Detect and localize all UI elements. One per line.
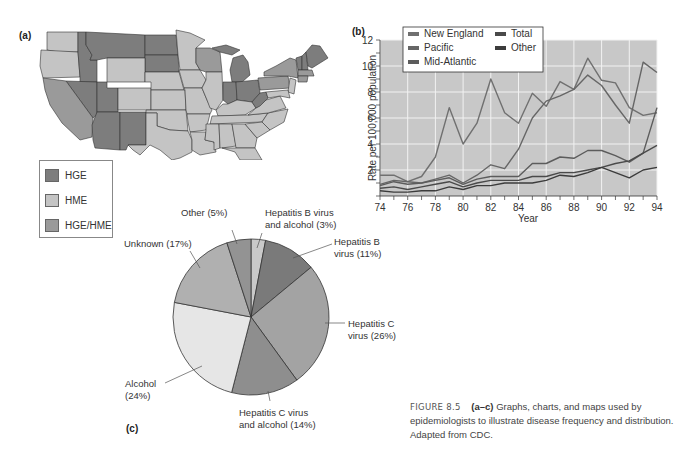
pie-label-line: Hepatitis C xyxy=(348,318,396,330)
state-mi xyxy=(230,55,250,82)
x-tick-label: 76 xyxy=(402,202,414,213)
state-ks xyxy=(151,90,186,110)
legend-label: Total xyxy=(511,28,532,39)
pie-slice-hepatitis-c-virus-and-alcohol xyxy=(232,317,297,395)
state-ma xyxy=(298,70,314,76)
pie-label-unknown: Unknown (17%) xyxy=(124,238,192,250)
state-me xyxy=(306,45,328,68)
legend-label-hge-hme: HGE/HME xyxy=(65,220,112,231)
state-pa xyxy=(258,76,290,90)
state-fl xyxy=(222,148,262,160)
legend-swatch xyxy=(408,46,419,50)
panel-label-c: (c) xyxy=(126,423,138,434)
x-tick-label: 74 xyxy=(374,202,386,213)
state-mt xyxy=(86,32,145,60)
pie-label-hbv-alcohol: Hepatitis B virus and alcohol (3%) xyxy=(265,207,336,231)
legend-swatch xyxy=(408,32,419,36)
legend-label: Pacific xyxy=(424,42,453,53)
pie-label-hcv: Hepatitis C virus (26%) xyxy=(348,318,396,342)
x-tick-label: 84 xyxy=(513,202,525,213)
pie-label-line: Other (5%) xyxy=(181,207,227,219)
x-tick-label: 94 xyxy=(651,202,663,213)
state-ny xyxy=(264,58,298,78)
x-tick-label: 78 xyxy=(430,202,442,213)
state-az xyxy=(92,112,120,150)
state-nm xyxy=(120,112,146,150)
pie-slice-unknown xyxy=(174,243,251,317)
legend-item-hge: HGE xyxy=(45,169,87,182)
state-wa xyxy=(47,32,78,52)
pie-slice-hepatitis-c-virus xyxy=(251,267,329,380)
leader-unknown xyxy=(190,251,200,268)
pie-label-line: (24%) xyxy=(125,390,156,402)
legend-swatch xyxy=(495,32,506,36)
leader-hcv-alcohol xyxy=(268,391,270,401)
state-wi xyxy=(196,48,222,72)
state-sd xyxy=(145,55,179,72)
legend-label: Mid-Atlantic xyxy=(424,56,476,67)
x-tick-label: 82 xyxy=(485,202,497,213)
state-ne xyxy=(145,72,184,90)
state-ut xyxy=(97,82,118,112)
pie-label-alcohol: Alcohol (24%) xyxy=(125,378,156,402)
figure-number: FIGURE 8.5 xyxy=(410,402,461,412)
pie-label-line: virus (11%) xyxy=(334,248,381,260)
legend-swatch-hge xyxy=(45,169,59,182)
legend-label-hge: HGE xyxy=(65,170,87,181)
legend-swatch-hge-hme xyxy=(45,219,59,232)
x-tick-label: 86 xyxy=(541,202,553,213)
pie-label-line: Hepatitis B virus xyxy=(265,207,336,219)
line-chart: (b) 747678808284868890929424681012 Rate … xyxy=(340,0,685,240)
leader-hbv-alcohol xyxy=(257,233,262,248)
legend-item-hme: HME xyxy=(45,194,87,207)
pie-label-hbv: Hepatitis B virus (11%) xyxy=(334,236,381,260)
pie-label-hcv-alcohol: Hepatitis C virus and alcohol (14%) xyxy=(239,407,316,431)
leader-hbv xyxy=(293,244,332,258)
pie-label-line: virus (26%) xyxy=(348,330,396,342)
state-wy xyxy=(107,58,145,82)
state-nd xyxy=(145,35,178,55)
y-axis-label: Rate per 100,000 population xyxy=(367,55,378,181)
pie-label-line: Alcohol xyxy=(125,378,156,390)
x-axis-label: Year xyxy=(518,213,539,224)
pie-label-other: Other (5%) xyxy=(181,207,227,219)
pie-label-line: Hepatitis C virus xyxy=(239,407,316,419)
figure-caption: FIGURE 8.5 (a–c) Graphs, charts, and map… xyxy=(410,400,680,442)
legend-label-hme: HME xyxy=(65,195,87,206)
legend-swatch xyxy=(408,60,419,64)
pie-label-line: and alcohol (14%) xyxy=(239,419,316,431)
state-nj xyxy=(288,78,296,94)
legend-item-hge-hme: HGE/HME xyxy=(45,219,112,232)
x-tick-label: 92 xyxy=(624,202,636,213)
pie-label-line: Hepatitis B xyxy=(334,236,381,248)
y-tick-label: 12 xyxy=(362,35,374,46)
pie-slice-hepatitis-b-virus-and-alcohol xyxy=(251,239,266,317)
pie-label-line: and alcohol (3%) xyxy=(265,219,336,231)
state-ia xyxy=(179,70,206,88)
chart-legend: New EnglandPacificMid-AtlanticTotalOther xyxy=(403,27,543,72)
pie-slice-hepatitis-b-virus xyxy=(251,240,311,317)
leader-alcohol xyxy=(165,366,202,383)
legend-swatch xyxy=(495,46,506,50)
pie-slice-alcohol xyxy=(173,302,251,392)
us-map xyxy=(0,0,340,160)
state-or xyxy=(40,50,80,78)
figure-range: (a–c) xyxy=(471,401,493,412)
legend-label: New England xyxy=(424,28,483,39)
x-tick-label: 80 xyxy=(458,202,470,213)
legend-label: Other xyxy=(511,42,537,53)
map-legend: HGE HME HGE/HME xyxy=(39,160,113,238)
x-tick-label: 90 xyxy=(596,202,608,213)
state-co xyxy=(118,88,151,110)
leader-other xyxy=(232,230,237,244)
x-tick-label: 88 xyxy=(568,202,580,213)
pie-label-line: Unknown (17%) xyxy=(124,238,192,250)
state-ct xyxy=(298,76,308,82)
legend-swatch-hme xyxy=(45,194,59,207)
pie-slice-other xyxy=(227,239,251,317)
